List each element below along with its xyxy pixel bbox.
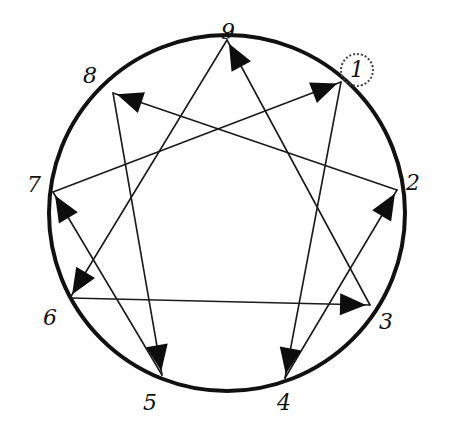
arrowhead-icon [72,267,95,295]
enneagram-canvas [0,0,449,438]
arrowhead-icon [309,82,337,103]
arrow-line-1-to-4 [285,82,341,378]
arrowhead-icon [372,193,395,221]
arrowheads [55,44,395,375]
arrow-line-7-to-1 [53,82,341,192]
arrowhead-icon [229,44,251,72]
outer-circle [49,35,405,391]
connection-lines [53,40,397,378]
point-label-5: 5 [143,392,157,414]
point-label-3: 3 [379,311,393,333]
point-label-4: 4 [277,392,291,414]
arrowhead-icon [340,293,366,315]
point-label-7: 7 [27,174,41,196]
arrowhead-icon [55,195,78,223]
enneagram-diagram: 9 1 2 3 4 5 6 7 8 [0,0,449,438]
arrowhead-icon [117,92,145,113]
point-label-1: 1 [340,53,374,87]
point-label-6: 6 [43,307,57,329]
point-label-2: 2 [406,172,420,194]
point-label-8: 8 [83,65,97,87]
arrow-line-6-to-3 [70,298,370,305]
point-label-9: 9 [221,21,235,43]
arrow-line-2-to-8 [113,93,397,190]
